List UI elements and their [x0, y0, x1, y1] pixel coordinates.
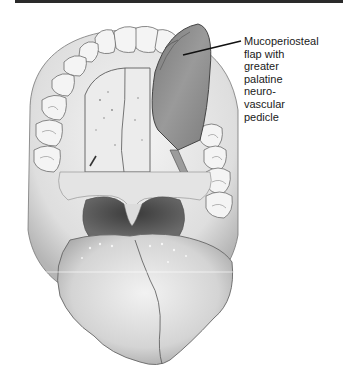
callout-line: pedicle: [244, 111, 343, 124]
callout-label: Mucoperiosteal flap with greater palatin…: [244, 35, 343, 123]
callout-line: neuro-: [244, 85, 343, 98]
tongue: [43, 234, 233, 365]
callout-line: Mucoperiosteal: [244, 35, 343, 48]
callout-line: flap with: [244, 48, 343, 61]
callout-line: palatine: [244, 73, 343, 86]
callout-line: greater: [244, 60, 343, 73]
callout-line: vascular: [244, 98, 343, 111]
exposed-palate: [85, 68, 150, 172]
